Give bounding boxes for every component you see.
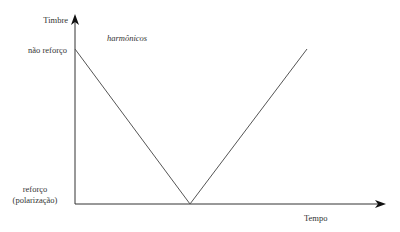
level-label-reinforced: reforço — [5, 184, 65, 194]
timbre-time-diagram: Timbre harmônicos não reforço reforço (p… — [0, 0, 400, 232]
level-label-polarization: (polarização) — [5, 195, 65, 205]
level-label-not-reinforced: não reforço — [5, 45, 67, 55]
timbre-curve — [75, 49, 307, 204]
x-axis-label: Tempo — [304, 213, 327, 223]
harmonics-annotation: harmônicos — [107, 33, 147, 43]
y-axis-label: Timbre — [20, 15, 68, 25]
